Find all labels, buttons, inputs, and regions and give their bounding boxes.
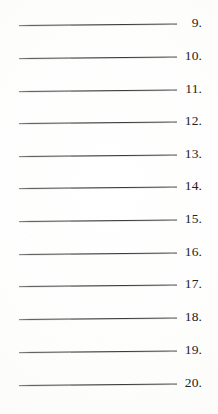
answer-blank-line[interactable] xyxy=(19,252,177,255)
answer-number-label: 16. xyxy=(185,245,202,259)
answer-number-label: 13. xyxy=(185,147,202,161)
answer-row: 19. xyxy=(0,333,218,359)
answer-blank-line[interactable] xyxy=(19,383,177,386)
answer-number-label: 14. xyxy=(185,179,202,193)
answer-row: 18. xyxy=(0,300,218,326)
answer-number-label: 10. xyxy=(185,49,202,63)
answer-row: 11. xyxy=(0,72,218,98)
answer-blank-line[interactable] xyxy=(19,154,177,157)
answer-blank-line[interactable] xyxy=(19,284,177,287)
answer-number-label: 15. xyxy=(185,212,202,226)
answer-number-label: 19. xyxy=(185,343,202,357)
answer-blank-line[interactable] xyxy=(19,56,177,59)
answer-number-label: 17. xyxy=(185,277,202,291)
answer-blank-line[interactable] xyxy=(19,219,177,222)
answer-row: 13. xyxy=(0,137,218,163)
answer-number-label: 9. xyxy=(192,16,202,30)
answer-number-label: 20. xyxy=(185,376,202,390)
answer-row: 17. xyxy=(0,267,218,293)
answer-row: 10. xyxy=(0,39,218,65)
answer-row: 16. xyxy=(0,235,218,261)
answer-row: 12. xyxy=(0,104,218,130)
answer-blank-line[interactable] xyxy=(19,89,177,92)
answer-blank-line[interactable] xyxy=(19,317,177,320)
answer-row: 20. xyxy=(0,366,218,392)
worksheet-page: 9.10.11.12.13.14.15.16.17.18.19.20. xyxy=(0,0,218,414)
answer-number-label: 18. xyxy=(185,310,202,324)
answer-blank-line[interactable] xyxy=(19,121,177,124)
answer-blank-line[interactable] xyxy=(19,350,177,353)
answer-number-label: 11. xyxy=(185,82,202,96)
answer-blank-line[interactable] xyxy=(19,186,177,189)
answer-row: 9. xyxy=(0,6,218,32)
answer-row: 14. xyxy=(0,169,218,195)
answer-row: 15. xyxy=(0,202,218,228)
answer-number-label: 12. xyxy=(185,114,202,128)
answer-blank-line[interactable] xyxy=(19,23,177,26)
